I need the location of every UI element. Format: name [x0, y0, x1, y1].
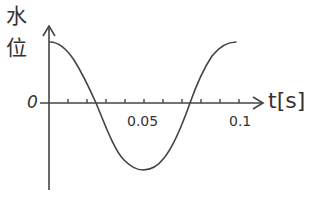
water-level-curve	[50, 42, 236, 170]
x-tick-label-0.1: 0.1	[229, 114, 251, 128]
origin-label: 0	[27, 94, 38, 111]
x-axis-label: t[s]	[268, 90, 305, 112]
x-tick-label-0.05: 0.05	[127, 114, 158, 128]
y-axis-label-char-2: 位	[6, 38, 27, 59]
y-axis-label-char-1: 水	[6, 6, 27, 27]
